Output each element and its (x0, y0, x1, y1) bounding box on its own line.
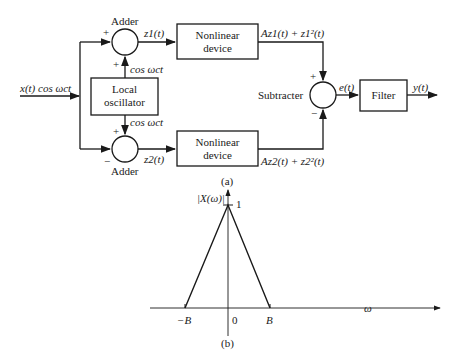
tick-b: B (266, 315, 273, 326)
caption-a: (a) (221, 176, 233, 187)
lo-bottom-output-label: cos ωct (130, 117, 163, 128)
filter-box: Filter (360, 89, 407, 102)
bottom-adder-input-sign: − (104, 156, 110, 167)
nonlinear-device-top: Nonlinear device (177, 29, 258, 55)
e-label: e(t) (339, 82, 354, 93)
bottom-adder-label: Adder (111, 166, 139, 177)
nl-top-line2: device (177, 42, 258, 55)
lo-line1: Local (91, 83, 158, 96)
subtracter-label: Subtracter (258, 90, 303, 101)
y-label: y(t) (413, 82, 428, 93)
z1-label: z1(t) (144, 28, 164, 39)
nonlinear-device-bottom: Nonlinear device (177, 136, 258, 162)
subtracter-plus-sign: + (310, 71, 316, 82)
nl-bottom-line2: device (177, 149, 258, 162)
nl-bottom-line1: Nonlinear (177, 136, 258, 149)
lo-top-output-label: cos ωct (130, 64, 163, 75)
lo-line2: oscillator (91, 96, 158, 109)
top-adder-input-sign: + (103, 27, 109, 38)
y-axis-label: |X(ω)| (197, 193, 225, 204)
input-signal-label: x(t) cos ωct (20, 83, 71, 94)
top-adder-lo-sign: + (113, 59, 119, 70)
z2-label: z2(t) (144, 154, 164, 165)
local-oscillator-box: Local oscillator (91, 83, 158, 109)
tick-neg-b: −B (177, 315, 191, 326)
x-axis-label: ω (364, 303, 372, 314)
bottom-adder-lo-sign: + (113, 126, 119, 137)
peak-label: 1 (236, 199, 242, 210)
tick-zero: 0 (232, 315, 238, 326)
subtracter-minus-sign: − (311, 108, 317, 119)
nonlinear-bottom-output-label: Az2(t) + z2²(t) (261, 156, 324, 167)
top-adder-label: Adder (111, 16, 139, 27)
nl-top-line1: Nonlinear (177, 29, 258, 42)
caption-b: (b) (221, 338, 234, 349)
nonlinear-top-output-label: Az1(t) + z1²(t) (261, 28, 324, 39)
